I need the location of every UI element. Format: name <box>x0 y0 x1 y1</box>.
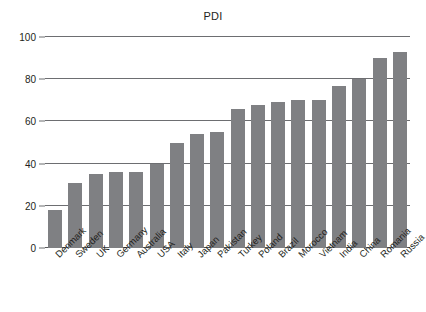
pdi-bar-chart: PDI 020406080100 DenmarkSwedenUKGermanyA… <box>0 0 426 312</box>
y-axis-tick-mark-20 <box>39 205 45 206</box>
y-axis-tick-label-20: 20 <box>0 200 36 211</box>
y-axis-tick-mark-80 <box>39 79 45 80</box>
y-axis-tick-mark-40 <box>39 163 45 164</box>
y-axis-tick-label-60: 60 <box>0 116 36 127</box>
y-axis-tick-label-40: 40 <box>0 158 36 169</box>
y-axis-tick-label-0: 0 <box>0 243 36 254</box>
x-axis-labels: DenmarkSwedenUKGermanyAustraliaUSAItalyJ… <box>45 249 410 312</box>
y-axis-tick-mark-60 <box>39 121 45 122</box>
y-axis-tick-mark-100 <box>39 37 45 38</box>
y-axis-tick-label-100: 100 <box>0 32 36 43</box>
y-axis-tick-label-80: 80 <box>0 74 36 85</box>
